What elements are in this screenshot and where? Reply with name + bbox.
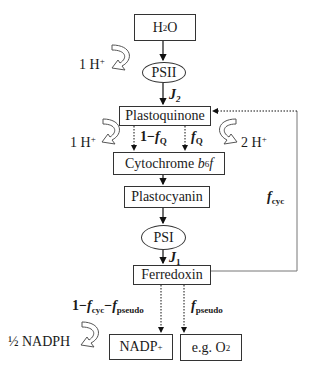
fq-sub: Q (196, 136, 203, 146)
label-h-psii: 1 H+ (79, 56, 105, 73)
omfq-prefix: 1− (140, 129, 155, 144)
h-psii-base: 1 H (79, 57, 100, 72)
h2o-h: H (153, 20, 163, 36)
o2-sub: 2 (226, 343, 231, 353)
label-fq: fQ (191, 129, 203, 146)
psi-label: PSI (153, 230, 173, 246)
node-ferredoxin: Ferredoxin (133, 265, 211, 285)
nf-mid: − (104, 298, 112, 313)
nadp-sup: + (158, 342, 163, 352)
label-one-minus-fq: 1−fQ (140, 129, 167, 146)
label-fcyc: fcyc (267, 189, 284, 206)
h-pql-base: 1 H (70, 135, 91, 150)
ferredoxin-label: Ferredoxin (141, 267, 202, 283)
h-pqr-sup: + (262, 134, 267, 144)
node-h2o: H2O (134, 14, 196, 41)
label-h-pq-left: 1 H+ (70, 134, 96, 151)
node-o2: e.g. O2 (180, 334, 242, 361)
nadph-label: ½ NADPH (8, 334, 70, 349)
nadp-label: NADP (119, 339, 157, 355)
j2-sub: 2 (176, 94, 181, 104)
node-psii: PSII (142, 62, 186, 83)
cyt-f: f (209, 156, 213, 172)
node-cytochrome: Cytochrome b6f (113, 152, 225, 175)
nf-sub2: pseudo (117, 305, 144, 315)
j1-sub: 1 (176, 257, 181, 267)
o2-label: e.g. O (192, 340, 226, 356)
h-pqr-base: 2 H (241, 135, 262, 150)
h2o-o: O (167, 20, 177, 36)
psii-label: PSII (152, 65, 177, 81)
h-pql-sup: + (91, 134, 96, 144)
label-nadph: ½ NADPH (8, 334, 70, 350)
cyt-b: b (198, 156, 205, 172)
node-plastoquinone: Plastoquinone (119, 106, 211, 126)
h-psii-sup: + (100, 56, 105, 66)
nf-sub1: cyc (92, 305, 105, 315)
label-j2: J2 (169, 87, 181, 104)
plastocyanin-label: Plastocyanin (131, 189, 203, 205)
label-fpseudo: fpseudo (191, 298, 223, 315)
cyt-prefix: Cytochrome (125, 156, 198, 172)
label-h-pq-right: 2 H+ (241, 134, 267, 151)
node-psi: PSI (141, 225, 186, 250)
label-j1: J1 (169, 250, 181, 267)
node-nadp: NADP+ (109, 334, 173, 360)
fcyc-sub: cyc (272, 196, 285, 206)
j1-sym: J (169, 250, 176, 265)
fpseudo-sub: pseudo (196, 305, 223, 315)
omfq-sub: Q (160, 136, 167, 146)
j2-sym: J (169, 87, 176, 102)
node-plastocyanin: Plastocyanin (124, 186, 210, 208)
label-nadp-fraction: 1−fcyc−fpseudo (72, 298, 144, 315)
nf-prefix: 1− (72, 298, 87, 313)
plastoquinone-label: Plastoquinone (125, 108, 204, 124)
